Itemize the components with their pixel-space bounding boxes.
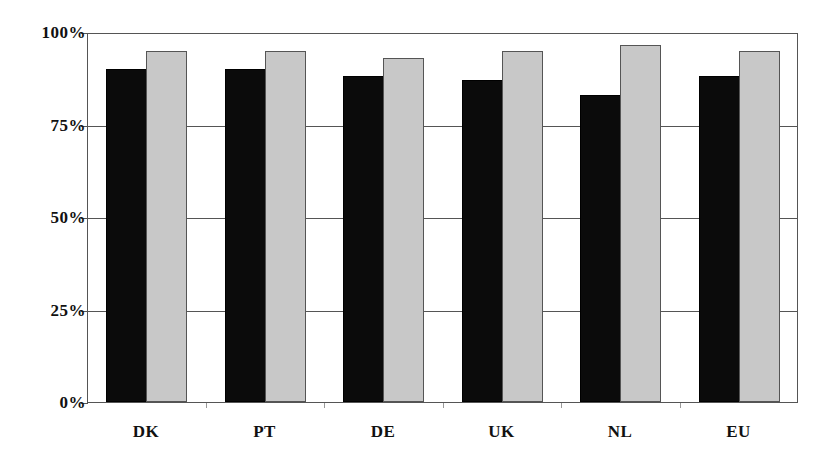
x-tick-label: PT (206, 422, 324, 442)
y-tick-label: 0% (60, 393, 87, 413)
x-tick-mark (206, 403, 207, 408)
y-tick-label: 75% (51, 116, 87, 136)
bar-nl-series-1 (580, 95, 621, 402)
y-tick-label: 25% (51, 301, 87, 321)
gridline (88, 218, 797, 219)
bar-uk-series-1 (462, 80, 503, 402)
x-tick-mark (443, 403, 444, 408)
y-tick-label: 50% (51, 208, 87, 228)
x-tick-label: DK (87, 422, 205, 442)
x-tick-mark (680, 403, 681, 408)
x-tick-mark (561, 403, 562, 408)
bar-eu-series-1 (699, 76, 740, 402)
bar-pt-series-1 (225, 69, 266, 402)
gridline (88, 126, 797, 127)
y-tick-label: 100% (42, 23, 87, 43)
plot-area (87, 33, 798, 403)
bar-dk-series-1 (106, 69, 147, 402)
gridline (88, 311, 797, 312)
bar-chart: 0%25%50%75%100% DKPTDEUKNLEU (0, 0, 824, 461)
bar-uk-series-2 (502, 51, 543, 403)
bar-pt-series-2 (265, 51, 306, 403)
x-tick-mark (324, 403, 325, 408)
bar-de-series-2 (383, 58, 424, 402)
bar-dk-series-2 (146, 51, 187, 403)
x-tick-label: NL (561, 422, 679, 442)
x-tick-label: DE (324, 422, 442, 442)
bar-eu-series-2 (739, 51, 780, 403)
x-tick-label: EU (680, 422, 798, 442)
bar-de-series-1 (343, 76, 384, 402)
x-tick-label: UK (443, 422, 561, 442)
bar-nl-series-2 (620, 45, 661, 402)
